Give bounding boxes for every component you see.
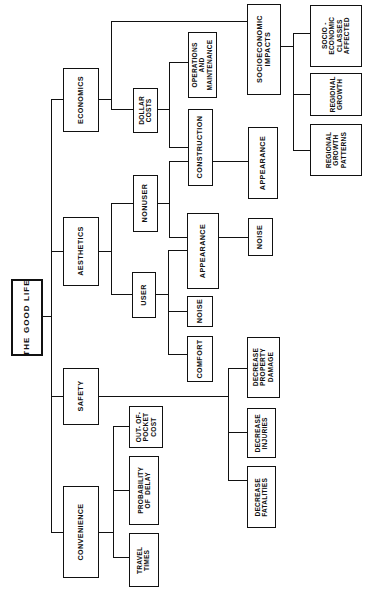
edge-user-comfort: [168, 354, 187, 355]
edge-user-spine: [168, 250, 169, 355]
edge-economics-dollar: [111, 109, 133, 110]
node-travel-times[interactable]: TRAVEL TIMES: [129, 533, 159, 587]
node-root-label: THE GOOD LIFE: [23, 279, 32, 356]
node-socioeconomic-impacts-label: SOCIOECONOMIC IMPACTS: [256, 16, 272, 84]
node-socio-economic-classes-affected-label: SOCIO - ECONOMIC CLASSES AFFECTED: [321, 17, 351, 55]
node-aesthetics[interactable]: AESTHETICS: [63, 217, 99, 286]
node-probability-of-delay[interactable]: PROBABILITY OF DELAY: [129, 456, 159, 525]
node-nonuser-label: NONUSER: [141, 184, 149, 223]
node-nonuser[interactable]: NONUSER: [133, 175, 158, 232]
diagram-canvas: THE GOOD LIFE ECONOMICS AESTHETICS SAFET…: [0, 0, 368, 592]
edge-socio-spine: [293, 33, 294, 151]
edge-root-aesthetics: [51, 251, 63, 252]
node-regional-growth-patterns-label: REGIONAL GROWTH PATTERNS: [325, 132, 347, 168]
edge-root-economics: [51, 99, 63, 100]
edge-socio-classes: [293, 33, 310, 34]
edge-convenience-spine: [113, 426, 114, 558]
node-operations-maintenance-label: OPERATIONS AND MAINTENANCE: [191, 40, 213, 91]
node-nonuser-appearance-label: APPEARANCE: [259, 136, 267, 190]
edge-conv-travel: [113, 557, 129, 558]
edge-aesthetics-user: [111, 294, 132, 295]
node-out-of-pocket-cost-label: OUT- OF- POCKET COST: [135, 412, 157, 443]
edge-dollar-constr: [169, 147, 188, 148]
node-travel-times-label: TRAVEL TIMES: [137, 546, 152, 573]
node-nonuser-noise-label: NOISE: [256, 225, 264, 249]
node-nonuser-appearance[interactable]: APPEARANCE: [248, 127, 278, 199]
edge-aesthetics-nonuser: [111, 203, 133, 204]
node-out-of-pocket-cost[interactable]: OUT- OF- POCKET COST: [129, 406, 163, 448]
edge-safety-injuries: [228, 432, 247, 433]
node-safety-label: SAFETY: [77, 381, 85, 412]
edge-user-noise: [168, 311, 187, 312]
edge-user-appearance: [168, 250, 187, 251]
edge-socio-patterns: [293, 150, 310, 151]
node-nonuser-noise[interactable]: NOISE: [248, 218, 273, 256]
edge-convenience-stub: [99, 532, 114, 533]
edge-safety-stub: [99, 396, 229, 397]
edge-root-spine: [51, 99, 52, 533]
node-aesthetics-label: AESTHETICS: [77, 227, 85, 277]
node-user-noise[interactable]: NOISE: [187, 296, 213, 327]
node-regional-growth-label: REGIONAL GROWTH: [329, 76, 344, 112]
node-root[interactable]: THE GOOD LIFE: [11, 279, 43, 356]
node-decrease-fatalities[interactable]: DECREASE FATALITIES: [247, 466, 276, 528]
edge-root-safety: [51, 396, 63, 397]
node-safety[interactable]: SAFETY: [63, 368, 99, 425]
node-operations-maintenance[interactable]: OPERATIONS AND MAINTENANCE: [188, 32, 217, 98]
node-construction-label: CONSTRUCTION: [196, 116, 204, 179]
node-construction[interactable]: CONSTRUCTION: [188, 109, 213, 186]
node-user-comfort[interactable]: COMFORT: [187, 336, 213, 382]
edge-dollar-spine: [169, 62, 170, 148]
node-user-comfort-label: COMFORT: [196, 339, 204, 378]
edge-safety-fatal: [228, 480, 247, 481]
node-probability-of-delay-label: PROBABILITY OF DELAY: [137, 467, 152, 514]
node-dollar-costs[interactable]: DOLLAR COSTS: [133, 88, 158, 133]
node-user-appearance-label: APPEARANCE: [199, 224, 207, 278]
node-decrease-property-damage[interactable]: DECREASE PROPERTY DAMAGE: [247, 337, 280, 398]
node-economics[interactable]: ECONOMICS: [63, 68, 99, 132]
edge-safety-property: [228, 368, 247, 369]
node-regional-growth[interactable]: REGIONAL GROWTH: [310, 73, 362, 116]
edge-economics-spine: [111, 21, 112, 110]
node-regional-growth-patterns[interactable]: REGIONAL GROWTH PATTERNS: [310, 124, 362, 176]
edge-conv-probability: [113, 490, 129, 491]
node-convenience-label: CONVENIENCE: [77, 503, 85, 560]
node-socio-economic-classes-affected[interactable]: SOCIO - ECONOMIC CLASSES AFFECTED: [310, 5, 362, 67]
node-user-label: USER: [140, 284, 148, 306]
node-convenience[interactable]: CONVENIENCE: [63, 486, 99, 578]
edge-socio-regional: [293, 94, 310, 95]
edge-root-convenience: [51, 532, 63, 533]
node-decrease-injuries-label: DECREASE INJURIES: [254, 414, 269, 452]
node-dollar-costs-label: DOLLAR COSTS: [138, 96, 153, 125]
edge-safety-spine: [228, 368, 229, 481]
node-economics-label: ECONOMICS: [77, 76, 85, 124]
node-user-appearance[interactable]: APPEARANCE: [187, 213, 219, 289]
node-user[interactable]: USER: [132, 272, 156, 318]
node-decrease-fatalities-label: DECREASE FATALITIES: [254, 478, 269, 517]
edge-nonuser-spine: [169, 161, 170, 238]
edge-aesthetics-spine: [111, 203, 112, 295]
node-socioeconomic-impacts[interactable]: SOCIOECONOMIC IMPACTS: [247, 4, 281, 95]
node-decrease-property-damage-label: DECREASE PROPERTY DAMAGE: [252, 348, 274, 386]
node-decrease-injuries[interactable]: DECREASE INJURIES: [247, 408, 276, 458]
edge-dollar-ops: [169, 62, 188, 63]
edge-economics-socio: [111, 21, 247, 22]
node-user-noise-label: NOISE: [196, 299, 204, 323]
edge-conv-outofpocket: [113, 426, 129, 427]
